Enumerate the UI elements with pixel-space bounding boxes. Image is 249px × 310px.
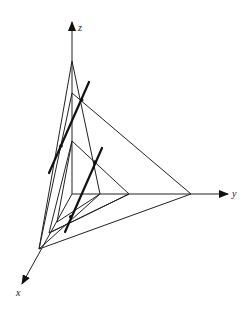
planes xyxy=(39,61,191,249)
axis-labels: zyx xyxy=(15,22,237,298)
axes xyxy=(22,22,228,284)
intersection-line-1-point-2 xyxy=(59,144,63,148)
intersection-line-1-point-1 xyxy=(80,98,84,102)
plane-1-yz-edge xyxy=(72,61,100,194)
plane-2-xy-edge xyxy=(39,194,191,249)
planes-diagram: zyx xyxy=(0,0,249,310)
extra-edge-2 xyxy=(57,194,100,222)
intersection-lines xyxy=(49,82,102,232)
y-axis-label: y xyxy=(231,188,237,199)
x-axis xyxy=(22,194,72,284)
intersection-line-2-point-2 xyxy=(69,215,73,219)
intersection-line-2-point-1 xyxy=(93,160,97,164)
x-axis-label: x xyxy=(15,287,21,298)
intersection-line-2 xyxy=(65,148,102,232)
z-axis-label: z xyxy=(77,22,82,33)
plane-1-xz-edge xyxy=(39,61,72,249)
